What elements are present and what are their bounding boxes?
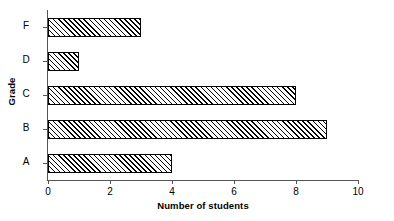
bar	[48, 120, 327, 139]
bar	[48, 154, 172, 173]
y-tick-mark	[43, 129, 47, 130]
x-tick-mark	[358, 180, 359, 184]
x-axis-line	[47, 180, 359, 181]
x-tick-label: 4	[157, 186, 187, 197]
bar-chart: Grade Number of students 0246810 FDCBA	[0, 0, 394, 221]
x-tick-label: 2	[95, 186, 125, 197]
bar	[48, 18, 141, 37]
x-tick-label: 6	[219, 186, 249, 197]
y-tick-mark	[43, 61, 47, 62]
plot-area: 0246810 FDCBA	[48, 10, 358, 180]
bar	[48, 52, 79, 71]
y-category-label: C	[14, 88, 38, 99]
y-category-label: A	[14, 156, 38, 167]
y-tick-mark	[43, 27, 47, 28]
y-category-label: D	[14, 54, 38, 65]
x-axis-title: Number of students	[48, 200, 358, 211]
x-tick-mark	[296, 180, 297, 184]
x-tick-label: 10	[343, 186, 373, 197]
y-tick-mark	[43, 95, 47, 96]
x-tick-label: 8	[281, 186, 311, 197]
y-category-label: B	[14, 122, 38, 133]
y-tick-mark	[43, 163, 47, 164]
x-tick-label: 0	[33, 186, 63, 197]
x-tick-mark	[172, 180, 173, 184]
x-tick-mark	[234, 180, 235, 184]
x-tick-mark	[110, 180, 111, 184]
x-tick-mark	[48, 180, 49, 184]
y-category-label: F	[14, 20, 38, 31]
bar	[48, 86, 296, 105]
